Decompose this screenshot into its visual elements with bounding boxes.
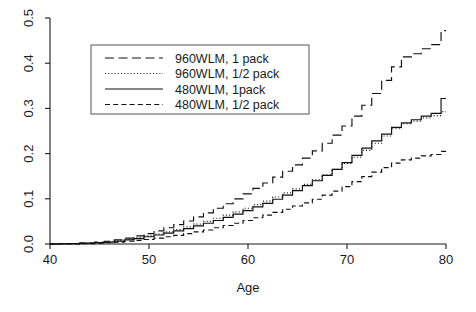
x-tick-label: 80 bbox=[439, 252, 453, 267]
y-tick-label: 0.2 bbox=[21, 145, 36, 163]
x-axis-title: Age bbox=[236, 280, 259, 295]
legend-label-0: 960WLM, 1 pack bbox=[175, 52, 270, 66]
y-tick-label: 0.3 bbox=[21, 99, 36, 117]
series-curve-1 bbox=[50, 112, 446, 244]
y-tick-label: 0.1 bbox=[21, 190, 36, 208]
legend-label-1: 960WLM, 1/2 pack bbox=[175, 67, 280, 81]
legend: 960WLM, 1 pack960WLM, 1/2 pack480WLM, 1p… bbox=[91, 45, 309, 114]
y-tick-label: 0.5 bbox=[21, 9, 36, 27]
legend-label-3: 480WLM, 1/2 pack bbox=[175, 98, 280, 112]
cumulative-risk-chart: 0.00.10.20.30.40.54050607080Age960WLM, 1… bbox=[0, 0, 476, 312]
x-tick-label: 60 bbox=[241, 252, 255, 267]
legend-label-2: 480WLM, 1pack bbox=[175, 83, 266, 97]
x-tick-label: 50 bbox=[142, 252, 156, 267]
series-curve-2 bbox=[50, 98, 446, 244]
y-tick-label: 0.4 bbox=[21, 54, 36, 72]
x-tick-label: 40 bbox=[43, 252, 57, 267]
y-tick-label: 0.0 bbox=[21, 235, 36, 253]
series-curve-3 bbox=[50, 151, 446, 244]
plot-area: 0.00.10.20.30.40.54050607080Age960WLM, 1… bbox=[0, 0, 476, 312]
x-tick-label: 70 bbox=[340, 252, 354, 267]
